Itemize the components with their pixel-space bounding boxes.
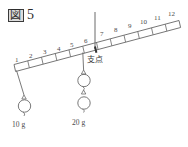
right-weight-label: 20 g xyxy=(72,118,85,127)
left-weight-label: 10 g xyxy=(12,120,25,129)
tick-label-7: 7 xyxy=(100,31,104,38)
tick-label-10: 10 xyxy=(140,19,147,26)
tick-label-5: 5 xyxy=(70,42,74,49)
tick-label-11: 11 xyxy=(154,15,161,22)
tick-label-2: 2 xyxy=(29,53,33,60)
tick-label-3: 3 xyxy=(43,49,47,56)
tick-label-1: 1 xyxy=(15,57,19,64)
left-weight-assembly xyxy=(17,71,31,117)
weight-disc-20g-upper xyxy=(78,74,90,86)
tick-label-4: 4 xyxy=(57,46,61,53)
tick-label-9: 9 xyxy=(128,23,132,30)
lever-diagram xyxy=(0,0,188,147)
weight-disc-10g xyxy=(18,100,30,112)
tick-label-6: 6 xyxy=(84,38,88,45)
weight-disc-20g-lower xyxy=(78,97,90,109)
tick-label-12: 12 xyxy=(168,11,175,18)
tick-label-8: 8 xyxy=(114,27,118,34)
fulcrum-label: 支点 xyxy=(87,53,103,64)
fulcrum-marker xyxy=(95,47,96,53)
